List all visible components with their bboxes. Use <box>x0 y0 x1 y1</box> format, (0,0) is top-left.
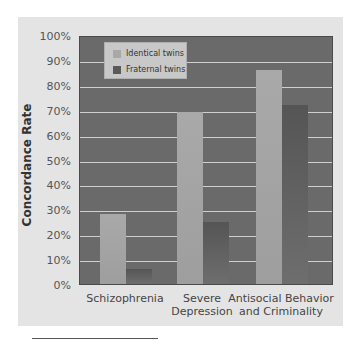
y-tick-label: 20% <box>31 229 71 242</box>
x-category-label: Antisocial Behaviorand Criminality <box>228 292 334 318</box>
x-category-label: Schizophrenia <box>86 292 163 305</box>
y-tick-label: 10% <box>31 254 71 267</box>
legend-label-identical: Identical twins <box>126 49 184 58</box>
y-tick-label: 50% <box>31 154 71 167</box>
y-tick-label: 30% <box>31 204 71 217</box>
x-category-label: SevereDepression <box>171 292 233 318</box>
bar-identical <box>100 214 126 284</box>
y-tick-label: 80% <box>31 79 71 92</box>
bar-fraternal <box>126 269 152 284</box>
fraternal-swatch <box>113 66 121 74</box>
bar-fraternal <box>203 222 229 284</box>
divider-line <box>32 338 158 339</box>
y-tick-label: 90% <box>31 54 71 67</box>
bar-identical <box>256 70 282 284</box>
bar-identical <box>177 112 203 284</box>
bar-fraternal <box>282 105 308 284</box>
legend-item-fraternal: Fraternal twins <box>113 65 185 74</box>
y-tick-label: 0% <box>31 279 71 292</box>
legend: Identical twins Fraternal twins <box>104 42 187 79</box>
gridline <box>80 87 332 88</box>
y-tick-label: 100% <box>31 30 71 43</box>
y-tick-label: 70% <box>31 104 71 117</box>
legend-label-fraternal: Fraternal twins <box>126 65 185 74</box>
identical-swatch <box>113 50 121 58</box>
y-tick-label: 60% <box>31 129 71 142</box>
legend-item-identical: Identical twins <box>113 49 184 58</box>
y-tick-label: 40% <box>31 179 71 192</box>
